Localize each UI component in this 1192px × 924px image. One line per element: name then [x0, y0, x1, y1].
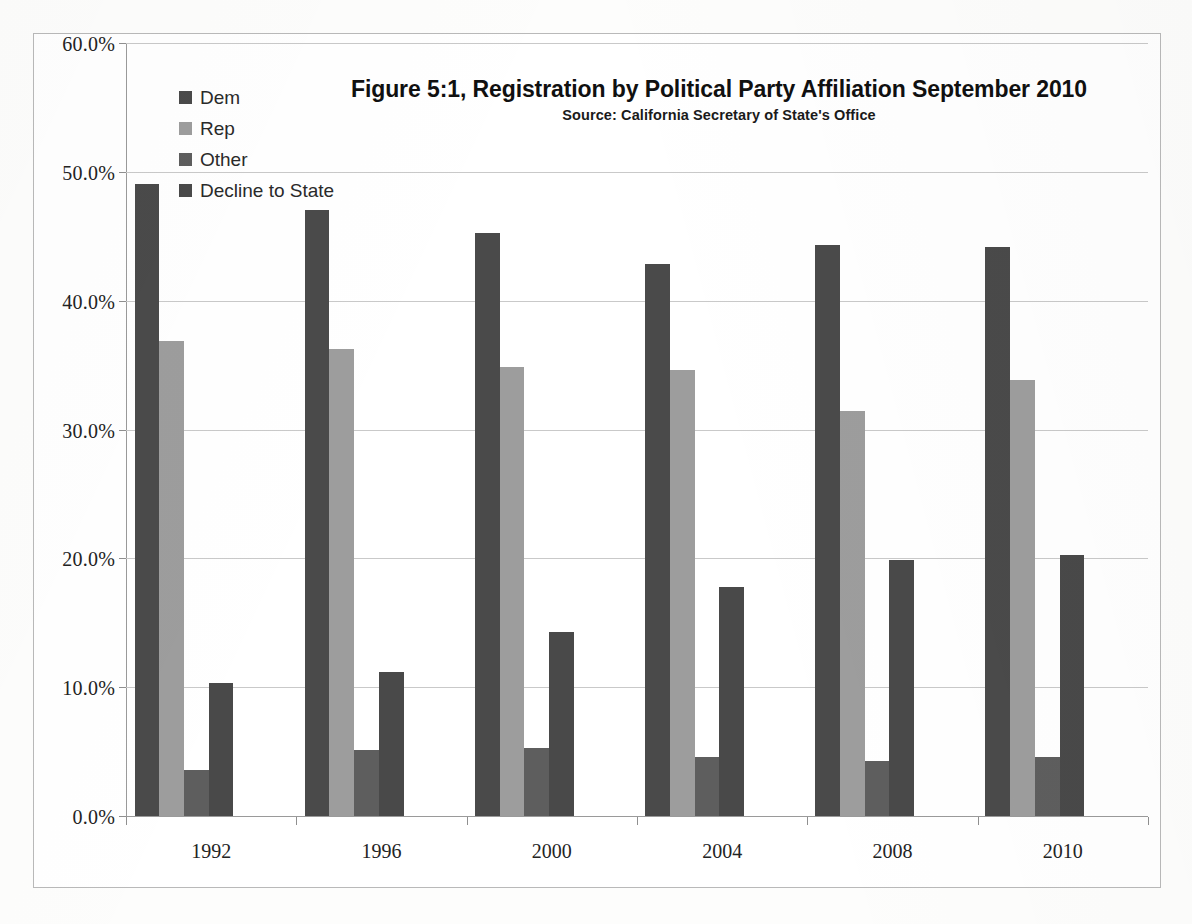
- legend-swatch-icon: [179, 122, 192, 135]
- bar-group: [978, 44, 1148, 816]
- bar-decline-to-state-1996: [379, 672, 404, 816]
- y-axis-tick-label: 20.0%: [62, 548, 115, 571]
- legend-item-label: Decline to State: [200, 180, 334, 202]
- bar-decline-to-state-1992: [209, 683, 234, 816]
- bar-other-1992: [184, 770, 209, 816]
- legend-item-label: Rep: [200, 118, 235, 140]
- y-axis-tick-mark: [119, 558, 126, 559]
- y-axis-tick-label: 50.0%: [62, 161, 115, 184]
- bar-other-1996: [354, 750, 379, 816]
- legend-swatch-icon: [179, 184, 192, 197]
- legend-swatch-icon: [179, 153, 192, 166]
- y-axis-tick-mark: [119, 43, 126, 44]
- bar-dem-1992: [135, 184, 160, 816]
- bar-decline-to-state-2010: [1060, 555, 1085, 816]
- x-axis-category-label: 2008: [873, 840, 913, 863]
- bar-other-2008: [865, 761, 890, 816]
- chart-title-block: Figure 5:1, Registration by Political Pa…: [334, 76, 1104, 123]
- bar-other-2000: [524, 748, 549, 816]
- y-axis-tick-label: 40.0%: [62, 290, 115, 313]
- y-axis-tick-mark: [119, 816, 126, 817]
- bar-dem-2004: [645, 264, 670, 816]
- x-axis-tick-mark: [1148, 817, 1149, 825]
- y-axis-tick-mark: [119, 172, 126, 173]
- bar-decline-to-state-2008: [889, 560, 914, 816]
- bar-rep-2008: [840, 411, 865, 816]
- x-axis-tick-mark: [637, 817, 638, 825]
- y-axis-tick-label: 10.0%: [62, 677, 115, 700]
- bar-dem-2010: [985, 247, 1010, 816]
- bar-rep-1992: [159, 341, 184, 816]
- page-title: Figure 5:1, Registration by Political Pa…: [334, 76, 1104, 102]
- chart-legend: DemRepOtherDecline to State: [179, 82, 334, 206]
- y-axis-tick-label: 30.0%: [62, 419, 115, 442]
- legend-item: Other: [179, 144, 334, 175]
- x-axis-tick-mark: [807, 817, 808, 825]
- y-axis-tick-label: 60.0%: [62, 33, 115, 56]
- x-axis-category-label: 2000: [532, 840, 572, 863]
- bar-group: [467, 44, 637, 816]
- legend-item: Decline to State: [179, 175, 334, 206]
- x-axis-tick-mark: [126, 817, 127, 825]
- bar-rep-2004: [670, 370, 695, 816]
- x-axis-category-label: 2010: [1043, 840, 1083, 863]
- bar-dem-2008: [815, 245, 840, 816]
- y-axis-tick-mark: [119, 301, 126, 302]
- bar-rep-1996: [329, 349, 354, 816]
- bar-decline-to-state-2004: [719, 587, 744, 816]
- chart-subtitle: Source: California Secretary of State's …: [334, 107, 1104, 123]
- legend-item: Rep: [179, 113, 334, 144]
- chart-frame: DemRepOtherDecline to State Figure 5:1, …: [33, 33, 1161, 888]
- y-axis-tick-label: 0.0%: [73, 806, 115, 829]
- x-axis-category-label: 2004: [702, 840, 742, 863]
- bar-rep-2010: [1010, 380, 1035, 816]
- bar-rep-2000: [500, 367, 525, 816]
- x-axis-tick-mark: [978, 817, 979, 825]
- x-axis-tick-mark: [296, 817, 297, 825]
- legend-swatch-icon: [179, 91, 192, 104]
- legend-item-label: Dem: [200, 87, 240, 109]
- bar-group: [638, 44, 808, 816]
- bar-other-2004: [695, 757, 720, 816]
- bar-dem-2000: [475, 233, 500, 816]
- x-axis-category-label: 1992: [191, 840, 231, 863]
- x-axis-tick-mark: [467, 817, 468, 825]
- bar-decline-to-state-2000: [549, 632, 574, 816]
- bar-group: [808, 44, 978, 816]
- legend-item: Dem: [179, 82, 334, 113]
- y-axis-tick-mark: [119, 687, 126, 688]
- bar-dem-1996: [305, 210, 330, 816]
- y-axis-tick-mark: [119, 430, 126, 431]
- legend-item-label: Other: [200, 149, 248, 171]
- x-axis-category-label: 1996: [362, 840, 402, 863]
- bar-other-2010: [1035, 757, 1060, 816]
